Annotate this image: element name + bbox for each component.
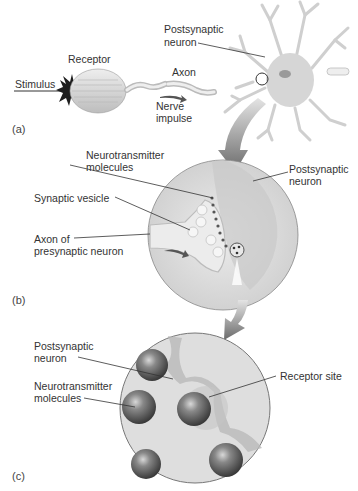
synapse-closeup-circle [148,160,298,310]
panel-tag-c: (c) [12,470,25,482]
label-postsynaptic-a-2: neuron [164,36,197,48]
outgoing-axon [327,68,349,75]
label-nerve: Nerve [156,100,184,112]
label-postsynaptic-b-2: neuron [289,175,322,187]
label-presynaptic-neuron: presynaptic neuron [34,245,123,257]
label-neurotransmitter-b-2: molecules [86,161,133,173]
receptor-closeup-circle [120,333,270,483]
label-neurotransmitter-c-2: molecules [34,392,81,404]
label-receptor: Receptor [68,53,111,65]
leader-axon-b [74,234,150,238]
neuron-soma [266,53,314,107]
label-axon-of: Axon of [34,233,70,245]
neuron-nucleus [279,70,291,78]
leader-postsynaptic-a [198,43,265,57]
panel-tag-b: (b) [12,294,25,306]
receptor-organ [70,69,126,113]
label-postsynaptic-c-1: Postsynaptic [34,340,94,352]
panel-tag-a: (a) [12,123,25,135]
label-receptor-site: Receptor site [280,370,342,382]
label-postsynaptic-a-1: Postsynaptic [164,23,224,35]
label-synaptic-vesicle: Synaptic vesicle [34,192,109,204]
label-neurotransmitter-c-1: Neurotransmitter [34,380,112,392]
label-stimulus: Stimulus [15,78,55,90]
axon-segments [127,84,214,93]
label-impulse: impulse [156,112,192,124]
label-neurotransmitter-b-1: Neurotransmitter [86,149,164,161]
label-axon: Axon [172,66,196,78]
label-postsynaptic-b-1: Postsynaptic [289,163,349,175]
label-postsynaptic-c-2: neuron [34,352,67,364]
